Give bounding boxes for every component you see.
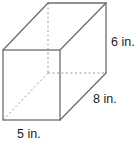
rectangular-prism-diagram bbox=[0, 0, 138, 141]
hidden-edge-diagonal bbox=[3, 73, 48, 120]
width-label: 5 in. bbox=[17, 128, 41, 141]
top-right-edge bbox=[60, 3, 106, 50]
height-label: 6 in. bbox=[111, 36, 135, 49]
depth-label: 8 in. bbox=[93, 93, 117, 106]
front-face bbox=[3, 50, 60, 120]
top-left-edge bbox=[3, 3, 48, 50]
